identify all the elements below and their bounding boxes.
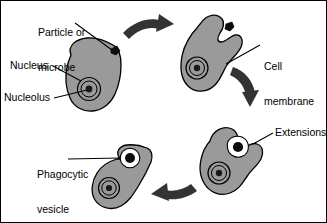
label-particle-microbe: Particle or microbe (38, 4, 85, 96)
leader-line-extensions (253, 133, 273, 144)
stage-1-nucleolus (86, 86, 93, 93)
stage-3-engulfed-particle (233, 142, 243, 152)
label-cell-membrane-line2: membrane (264, 96, 314, 108)
stage-2-particle (225, 22, 234, 31)
arrow-stage3-to-stage4 (151, 183, 197, 201)
label-phagocytic-vesicle-line1: Phagocytic (37, 169, 88, 181)
stage-4-nucleolus (106, 185, 112, 191)
stage-2-nucleolus (194, 65, 200, 71)
label-nucleus: Nucleus (10, 60, 48, 72)
label-nucleolus: Nucleolus (4, 92, 50, 104)
phagocytosis-diagram: Particle or microbe Nucleus Nucleolus Ce… (0, 0, 327, 223)
label-phagocytic-vesicle-line2: vesicle (37, 204, 88, 216)
label-cell-membrane-line1: Cell (264, 61, 314, 73)
label-extensions: Extensions (275, 127, 326, 139)
stage-3-cell-group (200, 128, 262, 195)
stage-2-cell-group (181, 15, 242, 91)
stage-4-cell-group (92, 145, 152, 209)
arrow-stage2-to-stage3 (230, 67, 259, 107)
label-particle-microbe-line1: Particle or (38, 27, 85, 39)
arrow-stage1-to-stage2 (123, 14, 174, 39)
stage-3-nucleolus (216, 170, 222, 176)
stage-4-engulfed-particle (125, 153, 135, 163)
label-cell-membrane: Cell membrane (264, 38, 314, 130)
label-phagocytic-vesicle: Phagocytic vesicle (37, 146, 88, 223)
